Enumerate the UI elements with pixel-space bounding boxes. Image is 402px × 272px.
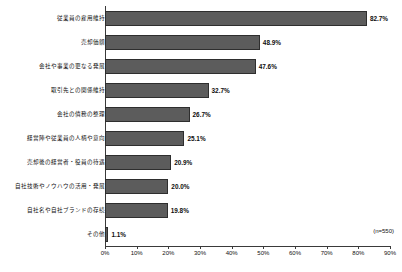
- category-label: 会社の債務の整理: [5, 111, 105, 117]
- value-label: 20.9%: [171, 159, 192, 166]
- category-label: 売却後の経営者・役員の待遇: [5, 159, 105, 165]
- x-tick-label: 60%: [289, 250, 301, 256]
- value-label: 25.1%: [184, 135, 205, 142]
- x-tick: [263, 246, 264, 249]
- x-axis-line: [105, 246, 390, 247]
- bar-track: 25.1%: [105, 131, 390, 146]
- x-tick-label: 20%: [162, 250, 174, 256]
- x-tick-label: 80%: [352, 250, 364, 256]
- bar-row: 売却後の経営者・役員の待遇20.9%: [0, 155, 402, 170]
- x-tick-label: 40%: [226, 250, 238, 256]
- category-label: 自社技術やノウハウの活用・発展: [5, 183, 105, 189]
- bar-track: 1.1%: [105, 227, 390, 242]
- category-label: 会社や事業の更なる発展: [5, 63, 105, 69]
- category-label: 経営陣や従業員の人柄や意向: [5, 135, 105, 141]
- bar: [105, 107, 190, 122]
- bar-track: 26.7%: [105, 107, 390, 122]
- bar: [105, 179, 168, 194]
- bar-row: 会社の債務の整理26.7%: [0, 107, 402, 122]
- bar-row: その他1.1%: [0, 227, 402, 242]
- value-label: 20.0%: [168, 183, 189, 190]
- x-tick-label: 0%: [101, 250, 110, 256]
- category-label: 自社名や自社ブランドの存続: [5, 207, 105, 213]
- x-tick-label: 30%: [194, 250, 206, 256]
- bar: [105, 35, 260, 50]
- x-tick: [327, 246, 328, 249]
- category-label: 従業員の雇用維持: [5, 15, 105, 21]
- bar-row: 従業員の雇用維持82.7%: [0, 11, 402, 26]
- bar-track: 47.6%: [105, 59, 390, 74]
- x-tick-label: 70%: [321, 250, 333, 256]
- bar-track: 82.7%: [105, 11, 390, 26]
- bar: [105, 59, 256, 74]
- category-label: 売却価額: [5, 39, 105, 45]
- x-tick-label: 10%: [131, 250, 143, 256]
- x-tick: [168, 246, 169, 249]
- bar: [105, 83, 209, 98]
- bar-track: 19.8%: [105, 203, 390, 218]
- bar: [105, 155, 171, 170]
- x-tick: [137, 246, 138, 249]
- x-tick: [200, 246, 201, 249]
- x-tick: [295, 246, 296, 249]
- bar-row: 自社名や自社ブランドの存続19.8%: [0, 203, 402, 218]
- bar: [105, 131, 184, 146]
- x-tick: [390, 246, 391, 249]
- bar-row: 取引先との関係維持32.7%: [0, 83, 402, 98]
- x-tick: [105, 246, 106, 249]
- bar-track: 20.0%: [105, 179, 390, 194]
- bar: [105, 203, 168, 218]
- value-label: 1.1%: [108, 231, 126, 238]
- bar-row: 自社技術やノウハウの活用・発展20.0%: [0, 179, 402, 194]
- value-label: 47.6%: [256, 63, 277, 70]
- x-tick-label: 50%: [257, 250, 269, 256]
- x-tick: [232, 246, 233, 249]
- bar-row: 売却価額48.9%: [0, 35, 402, 50]
- bar-track: 32.7%: [105, 83, 390, 98]
- value-label: 48.9%: [260, 39, 281, 46]
- value-label: 82.7%: [367, 15, 388, 22]
- bar-chart: 従業員の雇用維持82.7%売却価額48.9%会社や事業の更なる発展47.6%取引…: [0, 0, 402, 272]
- bar: [105, 11, 367, 26]
- value-label: 26.7%: [190, 111, 211, 118]
- sample-size-note: (n=550): [373, 228, 394, 234]
- category-label: その他: [5, 231, 105, 237]
- bar-rows: 従業員の雇用維持82.7%売却価額48.9%会社や事業の更なる発展47.6%取引…: [0, 6, 402, 246]
- bar-track: 20.9%: [105, 155, 390, 170]
- bar-track: 48.9%: [105, 35, 390, 50]
- x-tick: [358, 246, 359, 249]
- value-label: 32.7%: [209, 87, 230, 94]
- value-label: 19.8%: [168, 207, 189, 214]
- bar-row: 会社や事業の更なる発展47.6%: [0, 59, 402, 74]
- x-tick-label: 90%: [384, 250, 396, 256]
- category-label: 取引先との関係維持: [5, 87, 105, 93]
- bar-row: 経営陣や従業員の人柄や意向25.1%: [0, 131, 402, 146]
